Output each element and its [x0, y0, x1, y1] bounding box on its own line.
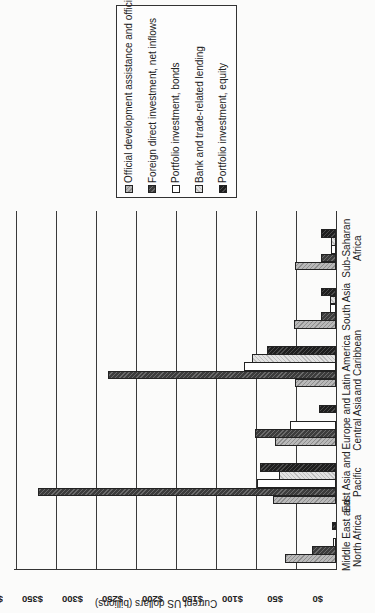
bar	[260, 463, 336, 472]
bar	[319, 405, 336, 414]
legend-label: Foreign direct investment, net inflows	[147, 18, 158, 183]
category-label-line: Latin America	[341, 335, 352, 396]
chart-stage: $0$50$100$150$200$250$300$350$400Middle …	[0, 0, 375, 613]
category-label-line: East Asia and	[341, 452, 352, 513]
bar	[331, 237, 336, 246]
x-axis-line	[336, 211, 337, 570]
bar	[267, 346, 336, 355]
bar	[333, 538, 336, 547]
bar	[321, 312, 336, 321]
category-label-line: Africa	[352, 218, 363, 279]
bar	[330, 296, 336, 305]
legend-item: Portfolio investment, equity	[217, 63, 228, 193]
bar	[312, 546, 336, 555]
legend-item: Foreign direct investment, net inflows	[147, 18, 158, 193]
category-label-line: Central Asia	[352, 394, 363, 455]
gridline	[96, 211, 97, 570]
bar	[295, 262, 336, 271]
legend-swatch-icon	[195, 185, 203, 193]
bar	[257, 479, 336, 488]
category-label-line: South Asia	[341, 277, 352, 338]
legend-label: Bank and trade-related lending	[194, 46, 205, 183]
gridline	[216, 211, 217, 570]
gridline	[56, 211, 57, 570]
category-label-line: Middle East and	[341, 511, 352, 572]
bar	[290, 421, 336, 430]
bar	[275, 437, 336, 446]
category-label-line: Europe and	[341, 394, 352, 455]
y-tick-label: $0	[297, 594, 323, 605]
bar	[255, 429, 336, 438]
x-category-label: Latin Americaand Caribbean	[341, 335, 363, 396]
legend-item: Bank and trade-related lending	[194, 46, 205, 193]
gridline	[16, 211, 17, 570]
y-axis-line	[14, 569, 336, 570]
y-tick-label: $300	[57, 594, 83, 605]
bar	[279, 471, 336, 480]
bar	[330, 304, 336, 313]
x-category-label: East Asia andPacific	[341, 452, 363, 513]
bar	[295, 379, 336, 388]
x-category-label: South Asia	[341, 277, 352, 338]
legend-item: Official development assistance and offi…	[123, 0, 134, 193]
legend-swatch-icon	[125, 185, 133, 193]
bar	[331, 245, 336, 254]
y-tick-label: $100	[217, 594, 243, 605]
bar	[321, 254, 336, 263]
bar	[108, 371, 336, 380]
bar	[321, 229, 336, 238]
gridline	[176, 211, 177, 570]
x-category-label: Europe andCentral Asia	[341, 394, 363, 455]
y-axis-title: Current US dollars (billions)	[95, 598, 217, 609]
category-label-line: Pacific	[352, 452, 363, 513]
y-tick-label: $400	[0, 594, 3, 605]
legend: Official development assistance and offi…	[116, 5, 237, 198]
legend-swatch-icon	[172, 185, 180, 193]
bar	[332, 522, 336, 531]
gridline	[256, 211, 257, 570]
category-label-line: North Africa	[352, 511, 363, 572]
bar	[294, 320, 336, 329]
bar	[285, 554, 336, 563]
gridline	[136, 211, 137, 570]
bar	[38, 488, 336, 497]
y-tick-label: $350	[17, 594, 43, 605]
legend-label: Portfolio investment, bonds	[170, 62, 181, 183]
x-category-label: Middle East andNorth Africa	[341, 511, 363, 572]
category-label-line: and Caribbean	[352, 335, 363, 396]
legend-item: Portfolio investment, bonds	[170, 62, 181, 193]
bar	[273, 496, 336, 505]
legend-label: Portfolio investment, equity	[217, 63, 228, 183]
bar	[252, 354, 336, 363]
bar	[321, 288, 336, 297]
bar	[244, 362, 336, 371]
category-label-line: Sub-Saharan	[341, 218, 352, 279]
y-tick-label: $50	[257, 594, 283, 605]
legend-swatch-icon	[219, 185, 227, 193]
legend-label: Official development assistance and offi…	[123, 0, 134, 183]
legend-swatch-icon	[148, 185, 156, 193]
x-category-label: Sub-SaharanAfrica	[341, 218, 363, 279]
